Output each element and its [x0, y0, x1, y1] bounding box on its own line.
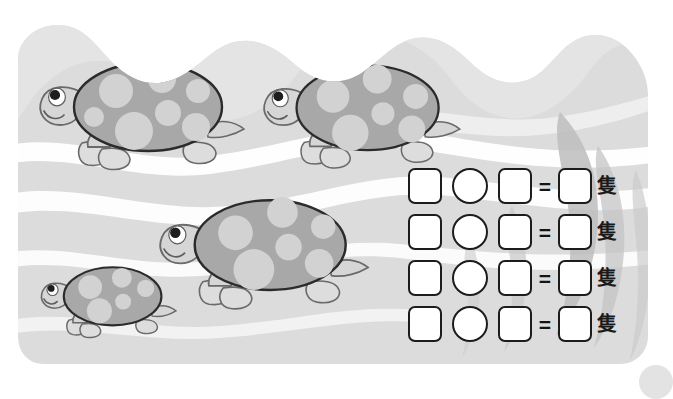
turtle-foot-front2 [80, 324, 101, 338]
turtle-foot-back [401, 142, 433, 162]
equals-sign-2: = [532, 222, 558, 243]
table-row: = 隻 [408, 255, 660, 301]
unit-label-3: 隻 [592, 268, 622, 288]
equals-sign-1: = [532, 176, 558, 197]
answer-box-2c[interactable] [558, 214, 592, 250]
unit-label-1: 隻 [592, 176, 622, 196]
operator-circle-4[interactable] [452, 306, 488, 342]
corner-decoration-dot [639, 365, 673, 399]
unit-label-2: 隻 [592, 222, 622, 242]
answer-box-1c[interactable] [558, 168, 592, 204]
table-row: = 隻 [408, 163, 660, 209]
answer-box-4a[interactable] [408, 306, 442, 342]
turtle-pupil [50, 90, 60, 100]
turtle-pupil [273, 92, 283, 102]
answer-box-2b[interactable] [498, 214, 532, 250]
turtle-foot-back [306, 281, 339, 303]
table-row: = 隻 [408, 209, 660, 255]
answer-box-2a[interactable] [408, 214, 442, 250]
table-row: = 隻 [408, 301, 660, 347]
equals-sign-3: = [532, 268, 558, 289]
equals-sign-4: = [532, 314, 558, 335]
answer-box-3c[interactable] [558, 260, 592, 296]
turtle-foot-front2 [220, 287, 252, 309]
equation-grid: = 隻 = 隻 = 隻 [408, 163, 660, 349]
answer-box-1a[interactable] [408, 168, 442, 204]
answer-box-3a[interactable] [408, 260, 442, 296]
turtle-foot-front2 [99, 148, 130, 169]
operator-circle-2[interactable] [452, 214, 488, 250]
answer-box-4b[interactable] [498, 306, 532, 342]
unit-label-4: 隻 [592, 314, 622, 334]
answer-box-4c[interactable] [558, 306, 592, 342]
answer-box-1b[interactable] [498, 168, 532, 204]
turtle-pupil [170, 228, 180, 238]
operator-circle-3[interactable] [452, 260, 488, 296]
answer-box-3b[interactable] [498, 260, 532, 296]
turtle-foot-front2 [320, 148, 350, 168]
turtle-foot-back [183, 142, 216, 163]
turtle-pupil [48, 285, 55, 292]
operator-circle-1[interactable] [452, 168, 488, 204]
